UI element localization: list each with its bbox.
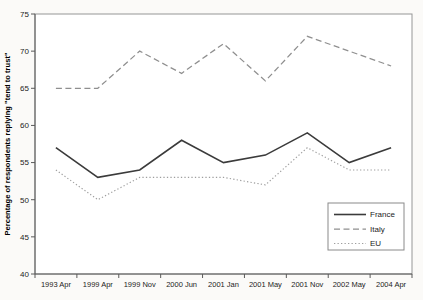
trust-line-chart-figure: Percentage of respondents replying "tend…: [0, 0, 423, 300]
x-tick-label: 2004 Apr: [376, 280, 407, 289]
legend-label-eu: EU: [370, 239, 381, 248]
y-tick-label: 40: [20, 270, 29, 279]
y-tick-label: 55: [20, 158, 29, 167]
y-tick-label: 75: [20, 10, 29, 19]
x-tick-label: 2001 Nov: [291, 280, 323, 289]
line-chart-canvas: Percentage of respondents replying "tend…: [0, 0, 423, 300]
y-tick-label: 50: [20, 196, 29, 205]
x-tick-label: 2001 Jan: [208, 280, 239, 289]
x-tick-label: 1999 Apr: [83, 280, 114, 289]
x-tick-label: 1993 Apr: [41, 280, 72, 289]
y-tick-label: 65: [20, 84, 29, 93]
x-tick-label: 2001 May: [249, 280, 282, 289]
y-tick-label: 70: [20, 47, 29, 56]
legend-label-italy: Italy: [370, 225, 385, 234]
legend-label-france: France: [370, 210, 395, 219]
y-tick-label: 45: [20, 233, 29, 242]
x-tick-label: 1999 Nov: [124, 280, 156, 289]
y-axis-title: Percentage of respondents replying "tend…: [3, 52, 12, 236]
y-tick-label: 60: [20, 121, 29, 130]
x-tick-label: 2000 Jun: [166, 280, 197, 289]
x-tick-label: 2002 May: [333, 280, 366, 289]
